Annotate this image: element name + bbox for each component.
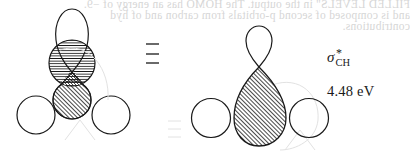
right-hydrogen-orbital	[290, 99, 329, 138]
left-hydrogen-orbital	[17, 96, 55, 134]
large-hatched-lobe	[234, 67, 286, 146]
equivalence-sign	[146, 44, 159, 63]
small-top-lobe	[246, 26, 272, 67]
orbital-subscript: CH	[335, 57, 350, 68]
orbital-symbol: σ	[327, 49, 334, 65]
left-orbital-combination	[17, 9, 130, 134]
energy-label: 4.48 eV	[327, 83, 374, 100]
right-hydrogen-orbital	[92, 96, 130, 134]
right-antibonding-orbital	[192, 26, 329, 146]
orbital-label: σ*CH	[327, 49, 350, 66]
left-hydrogen-orbital	[192, 99, 231, 138]
